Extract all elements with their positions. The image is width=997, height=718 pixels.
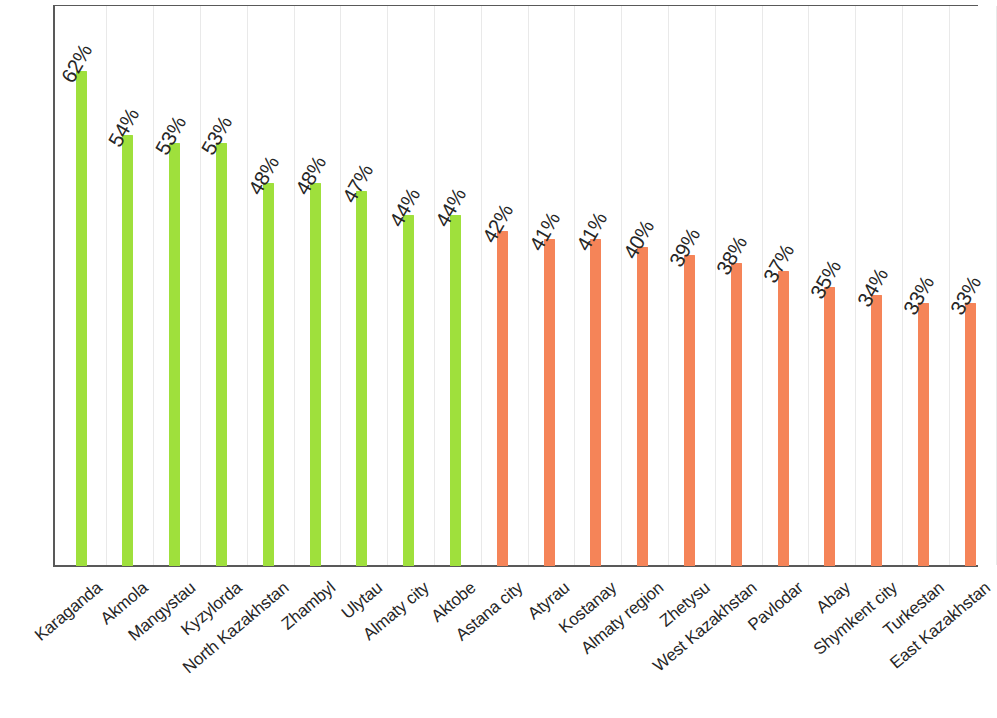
bar[interactable] bbox=[871, 295, 882, 566]
category-label: Atyrau bbox=[524, 578, 574, 624]
bar[interactable] bbox=[731, 263, 742, 566]
category-label: Zhetysu bbox=[656, 578, 714, 631]
category-label: Pavlodar bbox=[744, 578, 807, 635]
category-label: Shymkent city bbox=[810, 578, 902, 660]
category-label: Mangystau bbox=[125, 578, 200, 646]
category-label: Kostanay bbox=[555, 578, 621, 638]
category-label: Turkestan bbox=[880, 578, 949, 640]
bar[interactable] bbox=[590, 239, 601, 566]
category-label: Almaty region bbox=[577, 578, 667, 658]
bar[interactable] bbox=[497, 231, 508, 566]
bar[interactable] bbox=[122, 135, 133, 566]
category-labels-container: KaragandaAkmolaMangystauKyzylordaNorth K… bbox=[53, 570, 978, 718]
category-label: Karaganda bbox=[31, 578, 106, 646]
bar[interactable] bbox=[310, 183, 321, 566]
bar[interactable] bbox=[965, 303, 976, 566]
category-label: North Kazakhstan bbox=[179, 578, 293, 678]
category-label: Ulytau bbox=[338, 578, 387, 624]
gridline bbox=[996, 6, 997, 565]
bar[interactable] bbox=[684, 255, 695, 566]
bar[interactable] bbox=[778, 271, 789, 566]
category-label: Akmola bbox=[97, 578, 152, 629]
category-label: Zhambyl bbox=[278, 578, 340, 634]
bar[interactable] bbox=[403, 215, 414, 566]
category-label: East Kazakhstan bbox=[886, 578, 994, 673]
bar[interactable] bbox=[356, 191, 367, 566]
category-label: Kyzylorda bbox=[177, 578, 246, 640]
category-label: West Kazakhstan bbox=[649, 578, 761, 676]
category-label: Aktobe bbox=[428, 578, 480, 627]
bar[interactable] bbox=[169, 143, 180, 566]
bar[interactable] bbox=[637, 247, 648, 566]
bar[interactable] bbox=[824, 287, 835, 566]
bars-container bbox=[53, 5, 978, 566]
bar[interactable] bbox=[216, 143, 227, 566]
category-label: Almaty city bbox=[359, 578, 433, 645]
bar[interactable] bbox=[918, 303, 929, 566]
bar[interactable] bbox=[450, 215, 461, 566]
bar[interactable] bbox=[76, 71, 87, 566]
bar[interactable] bbox=[263, 183, 274, 566]
bar[interactable] bbox=[544, 239, 555, 566]
category-label: Astana city bbox=[452, 578, 527, 645]
category-label: Abay bbox=[813, 578, 855, 618]
